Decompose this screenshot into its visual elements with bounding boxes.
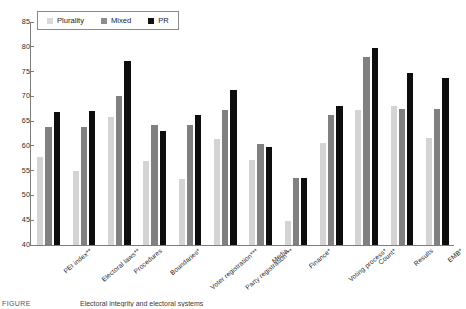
- bar-group: [320, 22, 345, 245]
- legend-swatch-pr: [148, 18, 154, 24]
- bar-pr: [266, 147, 272, 245]
- bar-group: [214, 22, 239, 245]
- x-tick-label: Results: [412, 247, 434, 267]
- legend-label-mixed: Mixed: [111, 16, 131, 25]
- caption-label: FIGURE: [2, 300, 80, 307]
- bar-mixed: [293, 178, 299, 245]
- legend-label-pr: PR: [158, 16, 169, 25]
- bar-plurality: [320, 143, 326, 245]
- y-tick-label: 55: [0, 166, 30, 176]
- bar-mixed: [328, 115, 334, 245]
- bar-pr: [124, 61, 130, 245]
- bar-plurality: [143, 161, 149, 245]
- bar-mixed: [434, 109, 440, 245]
- bar-plurality: [285, 221, 291, 245]
- bar-mixed: [399, 109, 405, 245]
- y-tick-mark: [30, 71, 34, 72]
- bar-pr: [195, 115, 201, 245]
- y-tick-label: 75: [0, 67, 30, 77]
- y-tick-label: 50: [0, 190, 30, 200]
- x-tick-label: Electoral laws**: [100, 247, 141, 283]
- y-tick-mark: [30, 245, 34, 246]
- legend-item-pr: PR: [148, 16, 169, 25]
- chart-figure: 40455055606570758085 Plurality Mixed PR …: [0, 0, 466, 309]
- bar-plurality: [214, 139, 220, 245]
- bar-group: [391, 22, 416, 245]
- legend-label-plurality: Plurality: [57, 16, 84, 25]
- y-tick-label: 80: [0, 42, 30, 52]
- y-tick-label: 70: [0, 91, 30, 101]
- legend-swatch-mixed: [101, 18, 107, 24]
- y-tick-label: 40: [0, 240, 30, 250]
- bar-mixed: [363, 57, 369, 245]
- bar-group: [37, 22, 62, 245]
- y-tick-mark: [30, 22, 34, 23]
- bar-plurality: [391, 106, 397, 245]
- bar-mixed: [151, 125, 157, 245]
- bar-pr: [301, 178, 307, 245]
- bar-mixed: [116, 96, 122, 245]
- x-tick-label: EMB*: [446, 247, 464, 263]
- x-tick-label: Finance*: [307, 247, 332, 270]
- x-tick-label: Boundaries*: [168, 247, 201, 276]
- bar-mixed: [222, 110, 228, 245]
- bar-mixed: [81, 127, 87, 245]
- bar-mixed: [45, 127, 51, 245]
- bar-group: [73, 22, 98, 245]
- bar-pr: [336, 106, 342, 245]
- bar-pr: [54, 112, 60, 245]
- bar-group: [426, 22, 451, 245]
- bar-pr: [89, 111, 95, 245]
- bar-pr: [372, 48, 378, 245]
- x-tick-label: PEI index**: [62, 247, 93, 275]
- y-tick-mark: [30, 145, 34, 146]
- bar-plurality: [179, 179, 185, 245]
- bar-pr: [160, 131, 166, 245]
- bar-plurality: [73, 171, 79, 245]
- y-tick-mark: [30, 96, 34, 97]
- bar-mixed: [257, 144, 263, 245]
- bar-plurality: [37, 157, 43, 245]
- bar-group: [143, 22, 168, 245]
- y-tick-label: 60: [0, 141, 30, 151]
- y-tick-mark: [30, 121, 34, 122]
- y-tick-label: 85: [0, 17, 30, 27]
- bar-plurality: [426, 138, 432, 245]
- chart-legend: Plurality Mixed PR: [37, 11, 179, 30]
- bar-mixed: [187, 125, 193, 245]
- bar-plurality: [355, 110, 361, 245]
- bar-group: [249, 22, 274, 245]
- legend-item-mixed: Mixed: [101, 16, 131, 25]
- y-tick-mark: [30, 220, 34, 221]
- figure-caption: FIGUREElectoral integrity and electoral …: [2, 300, 466, 307]
- plot-area: [30, 22, 454, 245]
- bar-group: [179, 22, 204, 245]
- y-tick-mark: [30, 195, 34, 196]
- legend-item-plurality: Plurality: [47, 16, 84, 25]
- bar-pr: [442, 78, 448, 245]
- bar-pr: [230, 90, 236, 245]
- bar-pr: [407, 73, 413, 245]
- x-axis-line: [30, 245, 454, 246]
- legend-swatch-plurality: [47, 18, 53, 24]
- x-axis-labels: PEI index**Electoral laws**ProceduresBou…: [30, 247, 460, 305]
- bar-plurality: [108, 117, 114, 245]
- y-tick-label: 45: [0, 215, 30, 225]
- y-tick-mark: [30, 170, 34, 171]
- y-tick-mark: [30, 46, 34, 47]
- bar-group: [108, 22, 133, 245]
- bar-plurality: [249, 160, 255, 245]
- y-tick-label: 65: [0, 116, 30, 126]
- bar-group: [285, 22, 310, 245]
- bar-group: [355, 22, 380, 245]
- caption-text: Electoral integrity and electoral system…: [80, 300, 203, 307]
